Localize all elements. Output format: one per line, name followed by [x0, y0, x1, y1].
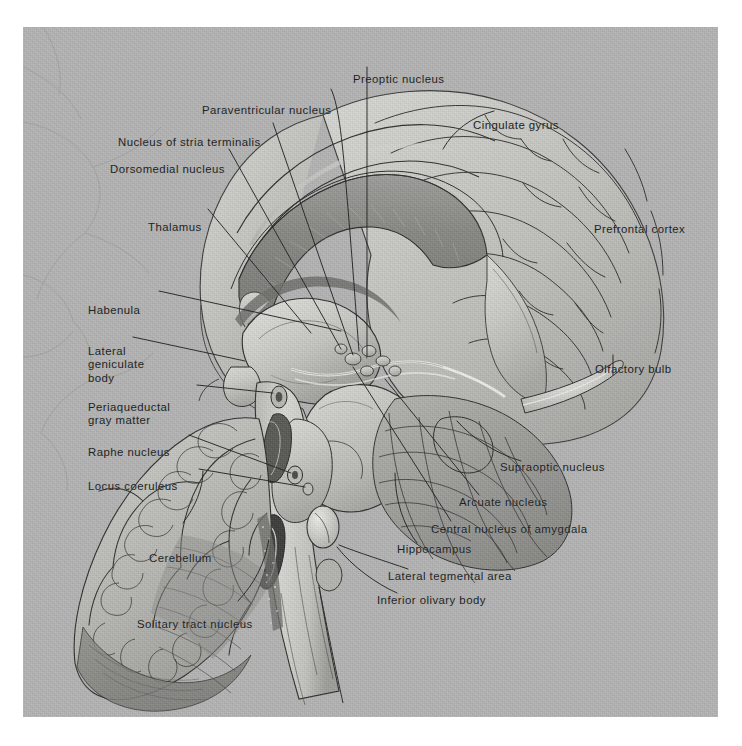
label-locus-coeruleus[interactable]: Locus coeruleus — [88, 480, 178, 493]
label-nucleus-of-stria-terminalis[interactable]: Nucleus of stria terminalis — [118, 136, 261, 149]
label-arcuate-nucleus[interactable]: Arcuate nucleus — [459, 496, 547, 509]
label-olfactory-bulb[interactable]: Olfactory bulb — [595, 363, 672, 376]
label-cerebellum[interactable]: Cerebellum — [149, 552, 212, 565]
label-central-nucleus-of-amygdala[interactable]: Central nucleus of amygdala — [431, 523, 588, 536]
label-raphe-nucleus[interactable]: Raphe nucleus — [88, 446, 170, 459]
label-lateral-tegmental-area[interactable]: Lateral tegmental area — [388, 570, 512, 583]
label-solitary-tract-nucleus[interactable]: Solitary tract nucleus — [137, 618, 253, 631]
label-dorsomedial-nucleus[interactable]: Dorsomedial nucleus — [110, 163, 225, 176]
label-paraventricular-nucleus[interactable]: Paraventricular nucleus — [202, 104, 331, 117]
label-cingulate-gyrus[interactable]: Cingulate gyrus — [473, 119, 559, 132]
label-preoptic-nucleus[interactable]: Preoptic nucleus — [353, 73, 444, 86]
label-hippocampus[interactable]: Hippocampus — [397, 543, 472, 556]
lateral-geniculate-body — [199, 367, 260, 407]
illustration-plate: Preoptic nucleus Paraventricular nucleus… — [23, 27, 718, 717]
label-periaqueductal-gray-matter[interactable]: Periaqueductal gray matter — [88, 401, 170, 428]
label-thalamus[interactable]: Thalamus — [148, 221, 202, 234]
label-lateral-geniculate-body[interactable]: Lateral geniculate body — [88, 345, 144, 385]
label-habenula[interactable]: Habenula — [88, 304, 140, 317]
label-supraoptic-nucleus[interactable]: Supraoptic nucleus — [500, 461, 605, 474]
figure-root: Preoptic nucleus Paraventricular nucleus… — [0, 0, 742, 746]
label-prefrontal-cortex[interactable]: Prefrontal cortex — [594, 223, 685, 236]
label-inferior-olivary-body[interactable]: Inferior olivary body — [377, 594, 486, 607]
